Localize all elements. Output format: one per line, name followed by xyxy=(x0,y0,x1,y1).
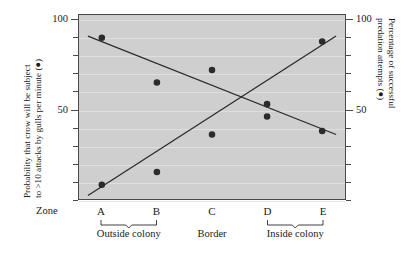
zone-group-braces xyxy=(0,0,419,259)
zone-group-brace xyxy=(268,220,324,228)
zone-group-brace xyxy=(101,220,157,228)
figure-container: 10050 10050 Probability that crow will b… xyxy=(0,0,419,259)
